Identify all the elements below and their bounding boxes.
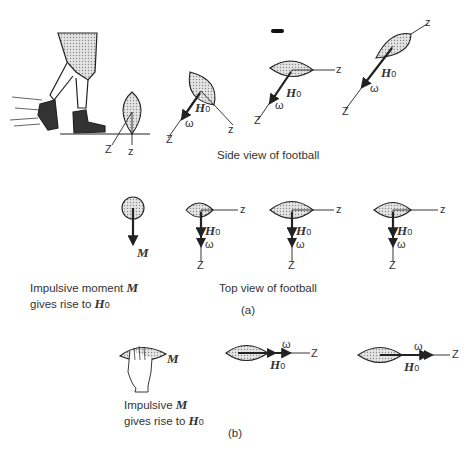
label-H0-b2: H0 [404, 359, 419, 375]
label-H0-top2: H0 [205, 223, 220, 239]
label-z-ball3: z [336, 63, 342, 75]
part-b-label: (b) [228, 426, 242, 441]
label-omega-ball2: ω [185, 117, 194, 129]
label-H0-top3: H0 [296, 223, 311, 239]
label-omega-ball3: ω [275, 99, 284, 111]
label-Z-ball2: Z [166, 133, 173, 145]
label-Z-top2: Z [197, 259, 204, 271]
top-view-ball-1 [122, 197, 144, 244]
label-H0-b1: H0 [270, 357, 285, 373]
football-standing [112, 92, 141, 145]
label-z-ball1: z [128, 145, 134, 157]
label-z-top3: z [336, 203, 342, 215]
label-Z-ball4: Z [342, 105, 349, 117]
part-b-ball-1 [226, 346, 310, 361]
label-omega-ball4: ω [370, 82, 379, 94]
label-Z-ball3: Z [254, 114, 261, 126]
label-omega-b1: ω [282, 338, 291, 350]
label-Z-b2: Z [452, 348, 459, 360]
label-Z-ball1: Z [105, 143, 112, 155]
label-Z-top3: Z [288, 259, 295, 271]
label-H0-top4: H0 [397, 223, 412, 239]
label-M-top: M [137, 245, 149, 261]
top-view-caption: Top view of football [219, 281, 317, 296]
impulse-caption-a: Impulsive moment M gives rise to H0 [30, 280, 138, 313]
label-z-ball4: z [425, 16, 431, 28]
football-side-view-3 [258, 29, 335, 120]
label-H0-ball4: H0 [381, 65, 396, 81]
label-omega-top2: ω [205, 238, 214, 250]
label-Z-top4: Z [389, 259, 396, 271]
label-omega-top3: ω [296, 238, 305, 250]
hand-holding-football [120, 346, 166, 392]
label-z-top2: z [240, 203, 246, 215]
label-M-b: M [167, 351, 179, 367]
label-Z-b1: Z [311, 347, 318, 359]
label-H0-ball2: H0 [195, 100, 210, 116]
label-omega-top4: ω [397, 238, 406, 250]
label-H0-ball3: H0 [286, 85, 301, 101]
impulse-caption-b: Impulsive M gives rise to H0 [124, 397, 204, 430]
part-a-label: (a) [241, 303, 255, 318]
label-z-top4: z [440, 203, 446, 215]
side-view-caption: Side view of football [217, 148, 319, 163]
label-z-ball2: z [228, 123, 234, 135]
label-omega-b2: ω [414, 340, 423, 352]
